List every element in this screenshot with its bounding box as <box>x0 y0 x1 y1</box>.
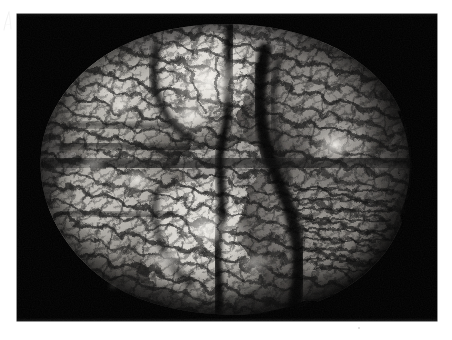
specimen-photograph: Black and white photograph of a whole br… <box>17 14 437 321</box>
page-speck <box>358 327 360 329</box>
faint-pencil-mark-icon <box>2 10 16 32</box>
page-background: Black and white photograph of a whole br… <box>0 0 452 340</box>
specimen-image <box>17 14 437 321</box>
